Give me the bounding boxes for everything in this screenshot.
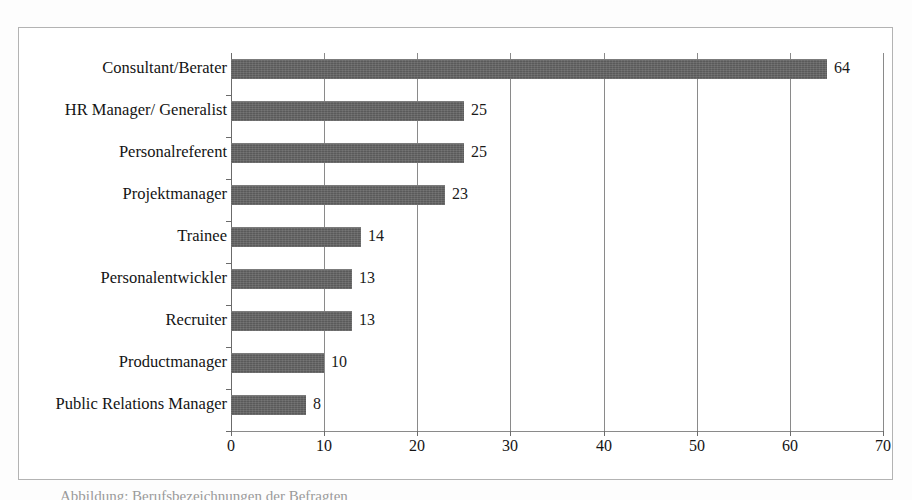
x-tick-label-30: 30: [502, 437, 518, 455]
bar-value-label: 25: [471, 100, 487, 120]
chart-figure: Consultant/BeraterHR Manager/ Generalist…: [0, 0, 912, 500]
category-label: Personalreferent: [0, 142, 227, 162]
bar-3: [231, 143, 464, 163]
bar-value-label: 23: [452, 184, 468, 204]
bar-row: 25: [231, 137, 883, 179]
bar-value-label: 13: [359, 310, 375, 330]
x-tick-label-0: 0: [227, 437, 235, 455]
category-label-slot: Personalentwickler: [0, 263, 227, 305]
bar-6: [231, 269, 352, 289]
x-tick-mark-50: [697, 431, 698, 436]
bar-4: [231, 185, 445, 205]
x-tick-mark-10: [324, 431, 325, 436]
category-label-slot: Productmanager: [0, 347, 227, 389]
x-tick-label-10: 10: [316, 437, 332, 455]
bar-8: [231, 353, 324, 373]
category-axis-labels: Consultant/BeraterHR Manager/ Generalist…: [0, 53, 227, 431]
bar-value-label: 64: [834, 58, 850, 78]
x-tick-label-20: 20: [409, 437, 425, 455]
category-label-slot: Public Relations Manager: [0, 389, 227, 431]
category-label: Recruiter: [0, 310, 227, 330]
x-tick-mark-20: [417, 431, 418, 436]
category-label-slot: Consultant/Berater: [0, 53, 227, 95]
bar-value-label: 13: [359, 268, 375, 288]
category-label: Trainee: [0, 226, 227, 246]
category-label: Productmanager: [0, 352, 227, 372]
category-label: Consultant/Berater: [0, 58, 227, 78]
gridline-70: [883, 53, 884, 431]
bar-value-label: 14: [368, 226, 384, 246]
bar-row: 23: [231, 179, 883, 221]
bar-row: 64: [231, 53, 883, 95]
bar-row: 14: [231, 221, 883, 263]
bar-row: 10: [231, 347, 883, 389]
category-label-slot: Personalreferent: [0, 137, 227, 179]
x-tick-mark-60: [790, 431, 791, 436]
x-tick-label-40: 40: [596, 437, 612, 455]
bar-1: [231, 59, 827, 79]
bar-5: [231, 227, 361, 247]
bar-2: [231, 101, 464, 121]
bar-row: 13: [231, 305, 883, 347]
category-label: Projektmanager: [0, 184, 227, 204]
x-tick-mark-30: [510, 431, 511, 436]
bar-value-label: 25: [471, 142, 487, 162]
bar-value-label: 8: [313, 394, 321, 414]
x-tick-mark-40: [604, 431, 605, 436]
category-label: Personalentwickler: [0, 268, 227, 288]
x-tick-label-60: 60: [782, 437, 798, 455]
plot-area: 64252523141313108 010203040506070: [231, 53, 883, 431]
bar-7: [231, 311, 352, 331]
bar-9: [231, 395, 306, 415]
x-tick-label-50: 50: [689, 437, 705, 455]
x-tick-mark-0: [231, 431, 232, 436]
bar-row: 25: [231, 95, 883, 137]
category-label: Public Relations Manager: [0, 394, 227, 414]
x-axis-baseline: [231, 431, 883, 432]
bottom-caption-clipped: Abbildung: Berufsbezeichnungen der Befra…: [60, 489, 850, 500]
category-label-slot: Trainee: [0, 221, 227, 263]
category-label-slot: Recruiter: [0, 305, 227, 347]
x-tick-label-70: 70: [875, 437, 891, 455]
bar-row: 8: [231, 389, 883, 431]
category-label-slot: Projektmanager: [0, 179, 227, 221]
category-label-slot: HR Manager/ Generalist: [0, 95, 227, 137]
bar-value-label: 10: [331, 352, 347, 372]
category-label: HR Manager/ Generalist: [0, 100, 227, 120]
chart-frame: Consultant/BeraterHR Manager/ Generalist…: [18, 27, 893, 480]
bar-row: 13: [231, 263, 883, 305]
x-tick-mark-70: [883, 431, 884, 436]
